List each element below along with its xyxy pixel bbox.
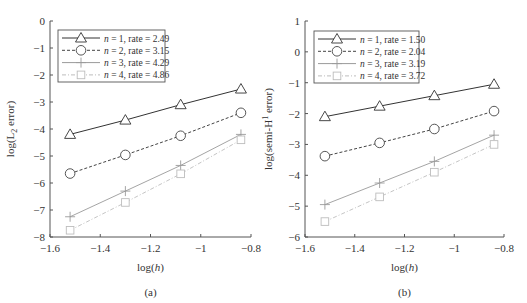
square-marker-icon (77, 71, 85, 79)
series-line (325, 144, 494, 221)
panel-caption: (b) (398, 286, 411, 299)
legend-label: n = 1, rate = 2.49 (104, 34, 170, 44)
data-point (237, 136, 245, 144)
y-tick-label: −1 (288, 77, 300, 89)
y-tick-label: 0 (40, 15, 46, 27)
series-line (70, 113, 241, 174)
series-line (325, 84, 494, 116)
x-axis-label: log(h) (391, 261, 418, 274)
data-point (176, 160, 186, 170)
data-point (65, 212, 75, 222)
series-n1 (65, 84, 247, 139)
data-point (65, 169, 75, 179)
x-tick-label: −1.2 (141, 242, 161, 254)
y-tick-label: −7 (33, 204, 45, 216)
series-n3 (65, 129, 246, 221)
series-n2 (320, 106, 499, 161)
x-tick-label: −1.2 (395, 242, 415, 254)
x-tick-label: −1 (448, 242, 460, 254)
y-tick-label: −5 (288, 200, 300, 212)
y-axis-label: log(L2 error) (4, 101, 19, 158)
y-tick-label: 1 (295, 15, 301, 27)
x-tick-label: −1 (195, 242, 207, 254)
data-point (376, 193, 384, 201)
x-tick-label: −0.8 (494, 242, 514, 254)
data-point (177, 170, 185, 178)
y-tick-label: −4 (33, 123, 45, 135)
legend-label: n = 4, rate = 3.72 (360, 71, 426, 81)
data-point (489, 130, 499, 140)
series-n3 (320, 130, 499, 209)
data-point (121, 150, 131, 160)
legend-label: n = 3, rate = 4.29 (104, 58, 170, 68)
series-line (70, 134, 241, 216)
legend-label: n = 3, rate = 3.19 (360, 59, 426, 69)
data-point (66, 226, 74, 234)
data-point (429, 156, 439, 166)
data-point (490, 141, 498, 149)
legend-item-n4: n = 4, rate = 3.72 (318, 71, 426, 81)
y-tick-label: −4 (288, 169, 300, 181)
data-point (320, 200, 330, 210)
legend: n = 1, rate = 2.49n = 2, rate = 3.15n = … (58, 30, 170, 82)
series-line (325, 135, 494, 204)
data-point (235, 84, 246, 94)
square-marker-icon (333, 72, 341, 80)
data-point (430, 124, 440, 134)
legend: n = 1, rate = 1.50n = 2, rate = 2.04n = … (314, 31, 426, 83)
data-point (321, 218, 329, 226)
legend-label: n = 2, rate = 3.15 (104, 46, 170, 56)
x-tick-label: −1.6 (40, 242, 60, 254)
data-point (489, 106, 499, 116)
x-tick-label: −1.4 (90, 242, 110, 254)
legend-item-n2: n = 2, rate = 2.04 (318, 47, 426, 57)
data-point (120, 186, 130, 196)
y-axis-label: log(semi-H1 error) (261, 88, 275, 170)
series-n4 (66, 136, 244, 234)
x-axis-label: log(h) (137, 261, 164, 274)
series-n4 (321, 141, 498, 226)
series-n1 (319, 79, 499, 121)
series-line (70, 140, 241, 230)
y-tick-label: −1 (33, 42, 45, 54)
data-point (320, 151, 330, 161)
series-line (325, 111, 494, 156)
panel-caption: (a) (144, 286, 157, 299)
legend-label: n = 2, rate = 2.04 (360, 47, 426, 57)
legend-label: n = 1, rate = 1.50 (360, 35, 426, 45)
y-tick-label: 0 (295, 46, 301, 58)
y-tick-label: −3 (33, 96, 45, 108)
y-tick-label: −6 (33, 177, 45, 189)
data-point (489, 79, 500, 89)
y-tick-label: −2 (33, 69, 45, 81)
y-tick-label: −2 (288, 108, 300, 120)
x-tick-label: −0.8 (241, 242, 261, 254)
chart-panel-a: 0−1−2−3−4−5−6−7−8−1.6−1.4−1.2−1−0.8log(h… (4, 15, 261, 299)
legend-label: n = 4, rate = 4.86 (104, 70, 170, 80)
data-point (122, 199, 130, 207)
data-point (176, 131, 186, 141)
y-tick-label: −3 (288, 138, 300, 150)
circle-marker-icon (76, 46, 86, 56)
x-tick-label: −1.6 (295, 242, 315, 254)
data-point (431, 168, 439, 176)
data-point (375, 138, 385, 148)
data-point (236, 108, 246, 118)
figure: 0−1−2−3−4−5−6−7−8−1.6−1.4−1.2−1−0.8log(h… (0, 0, 527, 303)
legend-item-n4: n = 4, rate = 4.86 (62, 70, 170, 80)
y-tick-label: −5 (33, 150, 45, 162)
series-line (70, 89, 241, 134)
legend-item-n2: n = 2, rate = 3.15 (62, 46, 170, 56)
chart-panel-b: 10−1−2−3−4−5−6−1.6−1.4−1.2−1−0.8log(h)lo… (261, 15, 514, 299)
series-n2 (65, 108, 245, 178)
data-point (375, 178, 385, 188)
circle-marker-icon (332, 47, 342, 57)
x-tick-label: −1.4 (345, 242, 365, 254)
